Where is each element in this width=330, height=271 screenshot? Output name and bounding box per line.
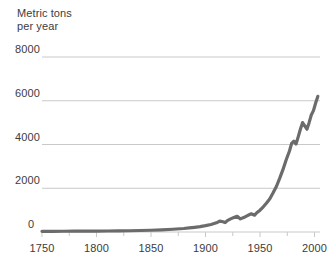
y-tick-label: 2000 bbox=[15, 174, 40, 186]
x-tick-label: 1950 bbox=[238, 242, 282, 254]
y-tick-label: 8000 bbox=[15, 43, 40, 55]
y-tick-label: 6000 bbox=[15, 87, 40, 99]
gridlines-group bbox=[42, 57, 320, 232]
x-tick-label: 1750 bbox=[20, 242, 64, 254]
x-tick-label: 1800 bbox=[75, 242, 119, 254]
chart-plot-area bbox=[0, 0, 330, 271]
data-series-line bbox=[42, 96, 318, 231]
y-tick-label: 4000 bbox=[15, 131, 40, 143]
chart-container: Metric tons per year 02000400060008000 1… bbox=[0, 0, 330, 271]
x-tick-label: 1850 bbox=[129, 242, 173, 254]
x-tick-label: 2000 bbox=[293, 242, 330, 254]
x-tick-label: 1900 bbox=[184, 242, 228, 254]
y-tick-label: 0 bbox=[28, 218, 34, 230]
